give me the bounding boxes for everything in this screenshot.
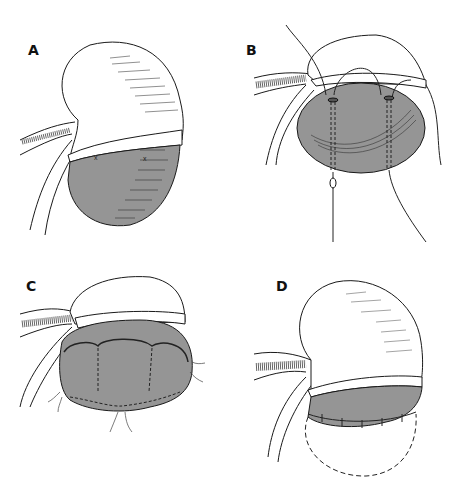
panel-d: D — [226, 242, 452, 484]
panel-a: A x x — [0, 0, 226, 242]
panel-b: B — [226, 0, 452, 242]
kidney-illustration-b — [226, 0, 452, 242]
kidney-illustration-c — [0, 242, 226, 484]
panel-c: C — [0, 242, 226, 484]
kidney-illustration-d — [226, 242, 452, 484]
mark-x: x — [94, 154, 98, 161]
mark-x: x — [143, 155, 147, 162]
kidney-illustration-a: x x — [0, 0, 226, 242]
